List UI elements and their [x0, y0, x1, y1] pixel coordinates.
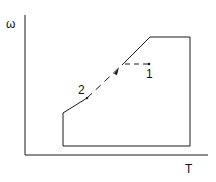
- y-axis-label: ω: [6, 18, 15, 30]
- point-1-label: 1: [146, 68, 153, 80]
- point-2-label: 2: [78, 84, 85, 96]
- arrow-head-icon: [114, 67, 119, 75]
- point-2-marker: [86, 97, 89, 100]
- diagram-canvas: [0, 0, 216, 182]
- point-1-marker: [148, 63, 151, 66]
- axes: [25, 15, 208, 155]
- x-axis-label: T: [185, 163, 192, 175]
